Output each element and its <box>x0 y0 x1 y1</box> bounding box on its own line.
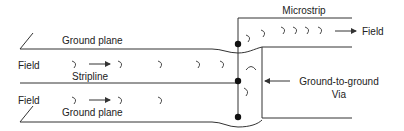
ground-plane-bottom-label: Ground plane <box>62 107 123 118</box>
via-label-line2: Via <box>332 89 347 100</box>
ground-to-ground-via <box>235 18 241 120</box>
via-node-middle <box>235 78 241 84</box>
field-lines-lower <box>72 88 248 104</box>
microstrip-label: Microstrip <box>282 5 326 16</box>
field-label-top-right: Field <box>362 26 384 37</box>
field-label-left-1: Field <box>18 60 40 71</box>
via-label-line1: Ground-to-ground <box>299 76 379 87</box>
via-node-top <box>235 41 241 47</box>
stripline-label: Stripline <box>72 71 109 82</box>
via-node-bottom <box>235 114 241 120</box>
stripline-microstrip-transition-diagram: Microstrip Field Ground plane Field Stri… <box>0 0 404 131</box>
field-label-left-2: Field <box>18 95 40 106</box>
field-lines-upper <box>72 61 256 70</box>
field-lines-microstrip <box>246 27 356 42</box>
ground-plane-top-label: Ground plane <box>62 35 123 46</box>
